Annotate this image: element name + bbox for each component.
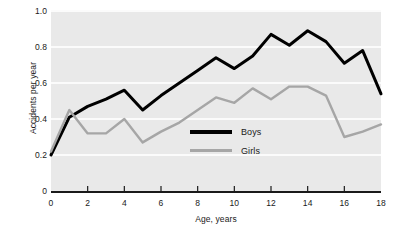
y-axis-title: Accidents per year — [28, 18, 38, 178]
legend-item-boys: Boys — [190, 122, 290, 141]
x-axis-tick-labels: 024681012141618 — [0, 0, 397, 236]
x-tick-label: 6 — [148, 198, 174, 208]
x-tick-label: 4 — [111, 198, 137, 208]
legend-swatch-boys — [190, 130, 232, 134]
x-tick-label: 18 — [368, 198, 394, 208]
legend-label-girls: Girls — [241, 146, 260, 156]
legend-item-girls: Girls — [190, 141, 290, 160]
x-axis-title: Age, years — [51, 214, 381, 224]
legend-swatch-girls — [190, 149, 232, 152]
legend-label-boys: Boys — [241, 127, 261, 137]
x-tick-label: 16 — [331, 198, 357, 208]
x-tick-label: 2 — [75, 198, 101, 208]
accidents-per-year-line-chart: 00.20.40.60.81.0 024681012141618 Acciden… — [0, 0, 397, 236]
x-tick-label: 0 — [38, 198, 64, 208]
chart-legend: Boys Girls — [190, 122, 290, 160]
x-tick-label: 8 — [185, 198, 211, 208]
x-tick-label: 10 — [221, 198, 247, 208]
x-tick-label: 12 — [258, 198, 284, 208]
x-tick-label: 14 — [295, 198, 321, 208]
